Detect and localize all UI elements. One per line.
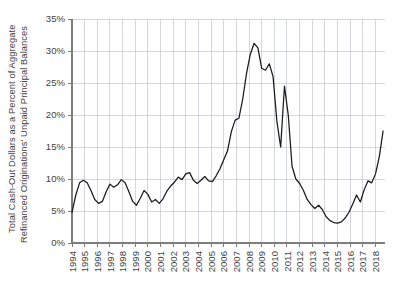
x-tick-label: 2002 [168, 251, 179, 272]
x-tick-label: 2007 [231, 251, 242, 272]
x-tick-label: 2003 [180, 251, 191, 272]
x-tick-label: 2011 [282, 251, 293, 272]
x-tick-label: 2014 [320, 250, 331, 272]
y-tick-label: 30% [46, 45, 66, 56]
y-tick-label: 15% [46, 141, 66, 152]
y-tick-label: 25% [46, 77, 66, 88]
y-axis-title-line2: Refinanced Originations' Unpaid Principa… [19, 26, 29, 243]
x-tick-label: 2000 [142, 251, 153, 272]
x-tick-label: 2006 [218, 251, 229, 272]
y-tick-label: 5% [51, 205, 65, 216]
x-tick-label: 1997 [105, 251, 116, 272]
x-tick-label: 1996 [92, 251, 103, 272]
y-tick-label: 10% [46, 173, 66, 184]
x-tick-label: 1995 [79, 251, 90, 272]
line-chart: 0%5%10%15%20%25%30%35% 19941995199619971… [0, 0, 406, 295]
y-axis-title-line1: Total Cash-Out Dollars as a Percent of A… [7, 25, 17, 233]
x-tick-label: 1999 [130, 251, 141, 272]
x-tick-label: 2010 [269, 251, 280, 272]
chart-container: 0%5%10%15%20%25%30%35% 19941995199619971… [0, 0, 406, 295]
y-tick-label: 35% [46, 13, 66, 24]
x-tick-label: 2018 [370, 251, 381, 272]
x-tick-label: 2016 [345, 251, 356, 272]
y-tick-label: 20% [46, 109, 66, 120]
x-tick-label: 1994 [67, 250, 78, 272]
x-tick-label: 2017 [357, 251, 368, 272]
x-tick-label: 2005 [206, 251, 217, 272]
x-tick-label: 2012 [294, 251, 305, 272]
x-tick-label: 2008 [244, 251, 255, 272]
y-tick-label: 0% [51, 237, 65, 248]
x-tick-label: 2009 [256, 251, 267, 272]
x-tick-label: 2001 [155, 251, 166, 272]
x-tick-label: 2015 [332, 251, 343, 272]
x-tick-label: 1998 [117, 251, 128, 272]
x-tick-label: 2013 [307, 251, 318, 272]
x-axis-tick-labels: 1994199519961997199819992000200120022003… [67, 250, 382, 272]
x-tick-label: 2004 [193, 250, 204, 272]
